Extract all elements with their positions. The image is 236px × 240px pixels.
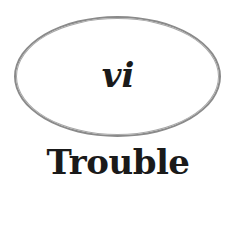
chapter-numeral: vi [0,55,236,95]
chapter-title: Trouble [0,140,236,184]
